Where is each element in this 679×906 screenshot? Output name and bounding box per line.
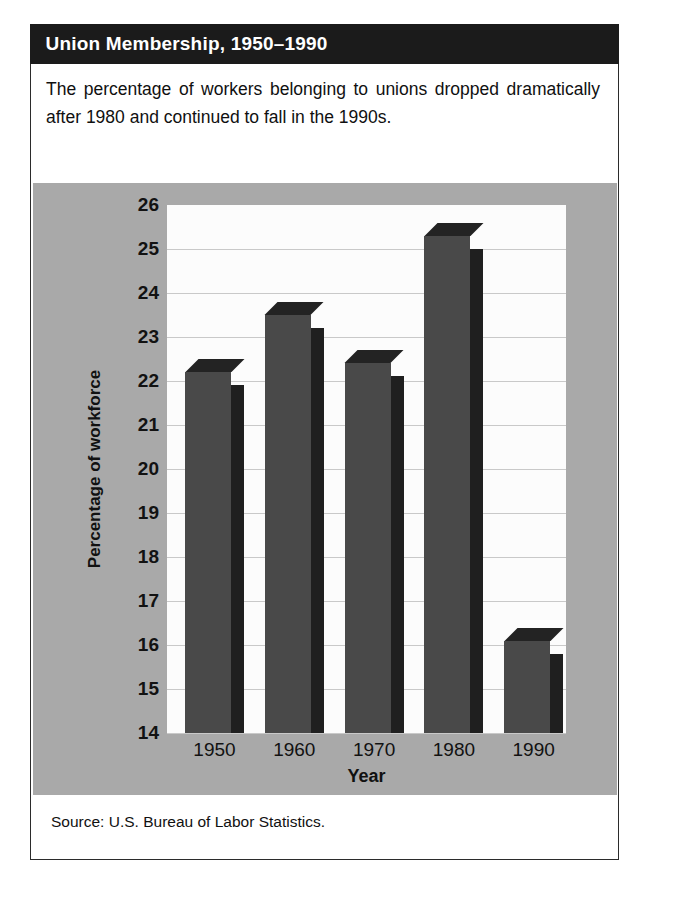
- chart-panel: 14151617181920212223242526 Percentage of…: [33, 183, 617, 795]
- x-tick-label: 1970: [353, 739, 395, 761]
- x-axis-title: Year: [167, 766, 566, 787]
- y-tick-label: 20: [119, 458, 159, 480]
- bar-top-face: [185, 359, 244, 372]
- figure-caption: The percentage of workers belonging to u…: [46, 75, 600, 132]
- bar-top-face: [265, 302, 324, 315]
- gridline: [167, 249, 566, 250]
- y-tick-label: 16: [119, 634, 159, 656]
- bar: [424, 236, 470, 733]
- y-tick-label: 24: [119, 282, 159, 304]
- bar-side-face: [550, 654, 563, 733]
- y-tick-label: 21: [119, 414, 159, 436]
- figure-container: Union Membership, 1950–1990 The percenta…: [30, 24, 619, 860]
- bar-front-face: [424, 236, 470, 733]
- bar-side-face: [391, 376, 404, 733]
- bar-side-face: [231, 385, 244, 733]
- bar-side-face: [311, 328, 324, 733]
- y-tick-label: 15: [119, 678, 159, 700]
- x-tick-label: 1980: [433, 739, 475, 761]
- figure-source: Source: U.S. Bureau of Labor Statistics.: [51, 813, 325, 831]
- plot-area: [167, 205, 566, 733]
- bar-side-face: [470, 249, 483, 733]
- bar-front-face: [345, 363, 391, 733]
- bar-front-face: [185, 372, 231, 733]
- x-tick-label: 1960: [273, 739, 315, 761]
- bar: [504, 641, 550, 733]
- gridline: [167, 733, 566, 734]
- y-tick-label: 17: [119, 590, 159, 612]
- x-tick-label: 1990: [513, 739, 555, 761]
- y-tick-label: 14: [119, 722, 159, 744]
- y-tick-label: 26: [119, 194, 159, 216]
- bar: [185, 372, 231, 733]
- gridline: [167, 337, 566, 338]
- y-tick-label: 23: [119, 326, 159, 348]
- bar-front-face: [265, 315, 311, 733]
- y-tick-label: 18: [119, 546, 159, 568]
- y-axis-ticks: 14151617181920212223242526: [111, 205, 159, 733]
- x-tick-label: 1950: [193, 739, 235, 761]
- gridline: [167, 293, 566, 294]
- y-tick-label: 19: [119, 502, 159, 524]
- figure-title: Union Membership, 1950–1990: [46, 33, 328, 55]
- y-tick-label: 22: [119, 370, 159, 392]
- bar: [345, 363, 391, 733]
- y-axis-title: Percentage of workforce: [85, 344, 105, 594]
- bar-front-face: [504, 641, 550, 733]
- bar-top-face: [424, 223, 483, 236]
- bar-top-face: [504, 628, 563, 641]
- bar: [265, 315, 311, 733]
- bar-top-face: [345, 350, 404, 363]
- figure-title-bar: Union Membership, 1950–1990: [30, 24, 619, 64]
- x-axis-ticks: 19501960197019801990: [167, 739, 566, 767]
- y-tick-label: 25: [119, 238, 159, 260]
